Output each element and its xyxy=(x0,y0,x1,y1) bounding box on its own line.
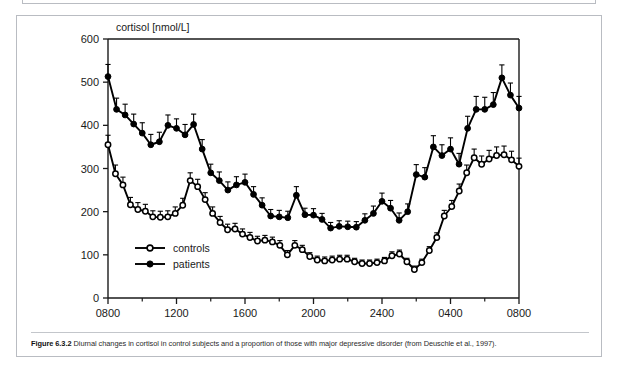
y-tick-label: 500 xyxy=(81,76,99,88)
data-point-controls xyxy=(262,237,267,242)
data-point-controls xyxy=(315,257,320,262)
data-point-patients xyxy=(276,214,282,220)
data-point-patients xyxy=(148,142,154,148)
data-point-patients xyxy=(362,217,368,223)
data-point-patients xyxy=(293,192,299,198)
data-point-patients xyxy=(379,198,385,204)
data-point-controls xyxy=(173,211,178,216)
data-point-controls xyxy=(247,235,252,240)
data-point-controls xyxy=(359,261,364,266)
data-point-controls xyxy=(404,259,409,264)
y-tick-label: 0 xyxy=(93,292,99,304)
data-point-controls xyxy=(210,211,215,216)
data-point-patients xyxy=(336,223,342,229)
cortisol-diurnal-chart: 0100200300400500600080012001600200024000… xyxy=(17,16,603,326)
data-point-patients xyxy=(165,122,171,128)
data-point-controls xyxy=(442,213,447,218)
data-point-patients xyxy=(225,187,231,193)
data-point-controls xyxy=(217,220,222,225)
x-tick-label: 2400 xyxy=(370,307,394,319)
data-point-controls xyxy=(285,252,290,257)
x-axis-title: Time [hours] xyxy=(461,325,519,326)
data-point-controls xyxy=(277,243,282,248)
data-point-controls xyxy=(180,202,185,207)
data-point-controls xyxy=(427,248,432,253)
data-point-patients xyxy=(234,182,240,188)
data-point-patients xyxy=(499,75,505,81)
data-point-controls xyxy=(188,178,193,183)
data-point-patients xyxy=(422,174,428,180)
data-point-patients xyxy=(114,106,120,112)
x-tick-label: 0800 xyxy=(96,307,120,319)
data-point-patients xyxy=(396,217,402,223)
data-point-patients xyxy=(302,212,308,218)
data-point-controls xyxy=(464,170,469,175)
data-point-patients xyxy=(405,209,411,215)
page-top-strip xyxy=(22,0,596,4)
data-point-patients xyxy=(456,161,462,167)
data-point-patients xyxy=(122,112,128,118)
legend-marker-patients xyxy=(147,261,153,267)
x-tick-label: 1200 xyxy=(164,307,188,319)
data-point-controls xyxy=(307,254,312,259)
caption-figure-number: Figure 6.3.2 xyxy=(31,339,71,348)
data-point-controls xyxy=(494,153,499,158)
data-point-controls xyxy=(501,152,506,157)
data-point-controls xyxy=(397,251,402,256)
data-point-patients xyxy=(156,139,162,145)
data-point-patients xyxy=(259,202,265,208)
data-point-controls xyxy=(367,261,372,266)
data-point-controls xyxy=(143,209,148,214)
data-point-patients xyxy=(242,179,248,185)
data-point-controls xyxy=(165,214,170,219)
data-point-patients xyxy=(490,102,496,108)
data-point-patients xyxy=(473,106,479,112)
data-point-patients xyxy=(353,224,359,230)
data-point-controls xyxy=(486,156,491,161)
data-point-patients xyxy=(508,92,514,98)
data-point-controls xyxy=(382,258,387,263)
series-errorbars-patients xyxy=(105,64,521,228)
data-point-patients xyxy=(139,130,145,136)
caption-divider xyxy=(31,332,589,333)
data-point-controls xyxy=(516,164,521,169)
data-point-controls xyxy=(471,155,476,160)
data-point-controls xyxy=(270,239,275,244)
data-point-controls xyxy=(255,238,260,243)
data-point-controls xyxy=(374,260,379,265)
figure-caption: Figure 6.3.2 Diurnal changes in cortisol… xyxy=(31,338,591,349)
y-tick-label: 400 xyxy=(81,119,99,131)
data-point-controls xyxy=(150,214,155,219)
data-point-controls xyxy=(457,188,462,193)
data-point-controls xyxy=(449,204,454,209)
data-point-patients xyxy=(465,125,471,131)
legend-label-patients: patients xyxy=(173,258,210,270)
data-point-controls xyxy=(195,184,200,189)
data-point-controls xyxy=(419,260,424,265)
data-point-controls xyxy=(202,197,207,202)
data-point-controls xyxy=(240,231,245,236)
data-point-patients xyxy=(268,213,274,219)
data-point-patients xyxy=(191,122,197,128)
data-point-controls xyxy=(225,227,230,232)
series-markers-patients xyxy=(105,74,522,231)
data-point-controls xyxy=(158,215,163,220)
data-point-patients xyxy=(216,178,222,184)
data-point-controls xyxy=(322,258,327,263)
data-point-controls xyxy=(479,161,484,166)
x-tick-label: 0800 xyxy=(507,307,531,319)
data-point-patients xyxy=(516,105,522,111)
data-point-patients xyxy=(482,106,488,112)
data-point-patients xyxy=(174,125,180,131)
data-point-patients xyxy=(285,215,291,221)
data-point-controls xyxy=(300,247,305,252)
data-point-controls xyxy=(344,256,349,261)
series-line-patients xyxy=(108,77,519,229)
y-tick-label: 200 xyxy=(81,206,99,218)
data-point-patients xyxy=(345,224,351,230)
data-point-controls xyxy=(434,235,439,240)
data-point-controls xyxy=(509,157,514,162)
data-point-controls xyxy=(337,256,342,261)
chart-plot-area: 0100200300400500600080012001600200024000… xyxy=(17,16,603,326)
data-point-controls xyxy=(232,226,237,231)
